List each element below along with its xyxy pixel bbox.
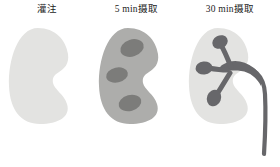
panel-label-uptake-5min: 5 min摄取	[88, 3, 185, 16]
panel-label-uptake-30min: 30 min摄取	[180, 3, 280, 16]
kidney-timecourse-figure: 灌注 5 min摄取 30 min摄取	[0, 0, 280, 167]
kidney-illustration-uptake-5min	[88, 20, 185, 167]
kidney-outline-shape	[9, 28, 68, 124]
kidney-illustration-perfusion	[0, 20, 95, 167]
panel-uptake-5min: 5 min摄取	[88, 0, 185, 167]
panel-label-perfusion: 灌注	[0, 3, 95, 16]
panel-uptake-30min: 30 min摄取	[180, 0, 280, 167]
panel-perfusion: 灌注	[0, 0, 95, 167]
kidney-illustration-uptake-30min	[180, 20, 280, 167]
